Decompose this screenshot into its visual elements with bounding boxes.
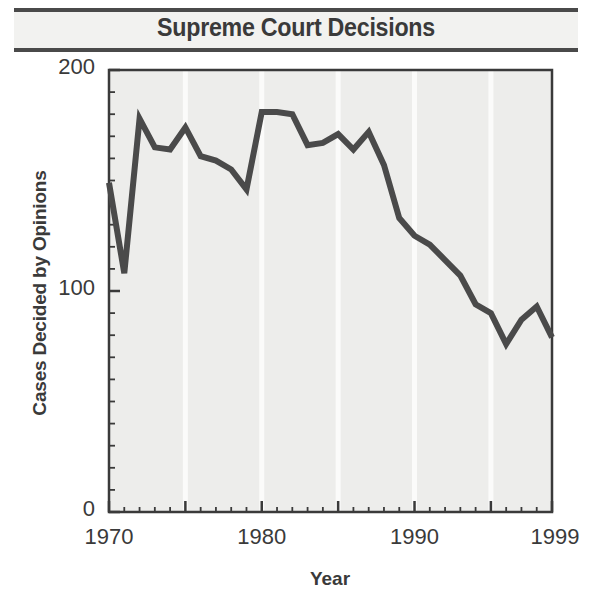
x-tick-label-1999: 1999 bbox=[510, 524, 592, 550]
x-tick-label-1970: 1970 bbox=[64, 524, 154, 550]
x-tick-label-1990: 1990 bbox=[370, 524, 460, 550]
x-tick-label-1980: 1980 bbox=[217, 524, 307, 550]
y-axis-title: Cases Decided by Opinions bbox=[29, 123, 51, 463]
y-tick-label-0: 0 bbox=[25, 496, 95, 522]
x-axis-title: Year bbox=[108, 568, 552, 590]
y-tick-label-200: 200 bbox=[25, 54, 95, 80]
chart-container: 0 100 200 1970 1980 1990 1999 Cases Deci… bbox=[0, 0, 592, 605]
